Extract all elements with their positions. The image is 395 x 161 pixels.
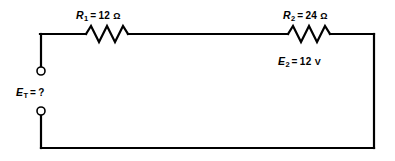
label-et: ET=? <box>16 86 45 102</box>
terminal-bottom <box>37 107 45 115</box>
label-e2-equals: = <box>290 56 300 67</box>
label-r1-value: 12 <box>98 10 110 21</box>
resistor-r1 <box>86 26 128 42</box>
label-et-equals: = <box>28 87 38 98</box>
label-r2-symbol: R <box>283 9 291 21</box>
circuit-diagram: R1=12 Ω R2=24 Ω E2=12 V ET=? <box>0 0 395 161</box>
circuit-schematic-canvas <box>0 0 395 161</box>
label-et-value: ? <box>38 87 44 98</box>
label-e2-unit: V <box>315 57 321 67</box>
label-r1: R1=12 Ω <box>76 9 121 25</box>
terminal-top <box>37 67 45 75</box>
label-e2: E2=12 V <box>278 55 321 71</box>
label-e2-subscript: 2 <box>285 60 289 69</box>
label-r2-unit: Ω <box>320 11 328 21</box>
label-r2: R2=24 Ω <box>283 9 328 25</box>
label-r1-unit: Ω <box>113 11 121 21</box>
label-r1-equals: = <box>88 10 98 21</box>
label-r2-value: 24 <box>305 10 317 21</box>
resistor-r2 <box>288 26 330 42</box>
label-e2-value: 12 <box>300 56 312 67</box>
label-r2-equals: = <box>295 10 305 21</box>
label-r1-symbol: R <box>76 9 84 21</box>
